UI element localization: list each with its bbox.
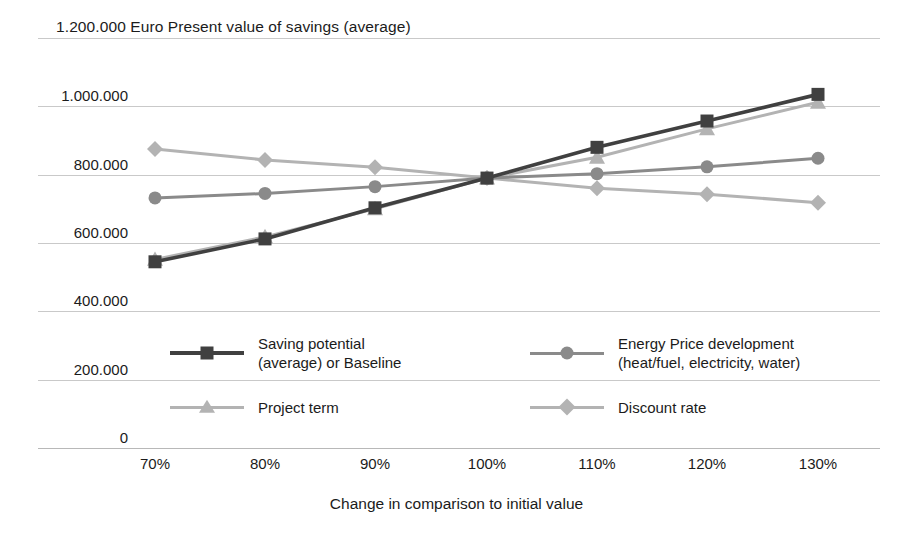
data-point-marker bbox=[147, 141, 163, 157]
legend-marker-triangle-icon bbox=[170, 396, 244, 418]
data-point-marker bbox=[591, 141, 604, 154]
data-point-marker bbox=[481, 172, 494, 185]
data-point-marker bbox=[369, 180, 382, 193]
legend-marker-circle-icon bbox=[530, 342, 604, 364]
x-axis-tick-label: 110% bbox=[578, 455, 615, 472]
legend-label: Project term bbox=[258, 398, 339, 417]
chart-container: 1.200.000 Euro Present value of savings … bbox=[0, 0, 913, 540]
legend-entry[interactable]: Discount rate bbox=[530, 396, 706, 418]
data-point-marker bbox=[259, 232, 272, 245]
x-axis-tick-label: 90% bbox=[360, 455, 390, 472]
x-axis-tick-label: 80% bbox=[250, 455, 280, 472]
data-point-marker bbox=[257, 152, 273, 168]
legend-marker-square-icon bbox=[170, 342, 244, 364]
x-axis-tick-label: 130% bbox=[799, 455, 837, 472]
x-axis-labels: 70%80%90%100%110%120%130% bbox=[38, 455, 880, 479]
data-point-marker bbox=[149, 191, 162, 204]
legend-label: Energy Price development (heat/fuel, ele… bbox=[618, 334, 800, 372]
data-point-marker bbox=[812, 152, 825, 165]
x-axis-tick-label: 120% bbox=[688, 455, 726, 472]
legend-entry[interactable]: Energy Price development (heat/fuel, ele… bbox=[530, 334, 800, 372]
legend-entry[interactable]: Saving potential (average) or Baseline bbox=[170, 334, 401, 372]
chart-legend: Saving potential (average) or BaselineEn… bbox=[170, 330, 870, 440]
data-point-marker bbox=[589, 180, 605, 196]
data-point-marker bbox=[259, 187, 272, 200]
data-point-marker bbox=[591, 167, 604, 180]
x-axis-tick-label: 100% bbox=[468, 455, 506, 472]
data-point-marker bbox=[812, 88, 825, 101]
data-point-marker bbox=[149, 255, 162, 268]
data-point-marker bbox=[701, 115, 714, 128]
data-point-marker bbox=[699, 186, 715, 202]
data-point-marker bbox=[369, 201, 382, 214]
legend-label: Saving potential (average) or Baseline bbox=[258, 334, 401, 372]
x-axis-tick-label: 70% bbox=[140, 455, 170, 472]
legend-marker-diamond-icon bbox=[530, 396, 604, 418]
data-point-marker bbox=[367, 159, 383, 175]
series-group bbox=[149, 88, 825, 268]
legend-entry[interactable]: Project term bbox=[170, 396, 339, 418]
x-axis-title: Change in comparison to initial value bbox=[0, 495, 913, 513]
data-point-marker bbox=[810, 195, 826, 211]
legend-label: Discount rate bbox=[618, 398, 706, 417]
data-point-marker bbox=[701, 160, 714, 173]
